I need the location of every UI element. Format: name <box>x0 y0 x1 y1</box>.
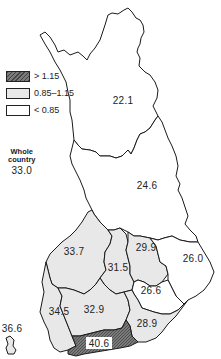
legend-label-medium: 0.85–1.15 <box>34 88 74 98</box>
label-oulu: 24.6 <box>137 180 158 191</box>
label-vaasa: 33.7 <box>64 246 85 257</box>
legend-label-low: < 0.85 <box>34 105 59 115</box>
legend-swatch-high <box>6 71 30 82</box>
label-lapland: 22.1 <box>113 95 134 106</box>
label-central-finland: 31.5 <box>108 262 129 273</box>
label-kymi: 28.9 <box>137 318 158 329</box>
legend-item-low: < 0.85 <box>6 102 74 118</box>
region-aland <box>6 336 16 354</box>
finland-map: 22.1 24.6 33.7 31.5 29.9 26.0 26.6 34.5 … <box>0 0 221 359</box>
label-north-karelia: 26.0 <box>183 253 204 264</box>
whole-country-title-2: country <box>8 156 36 164</box>
label-kuopio: 29.9 <box>136 242 157 253</box>
label-mikkeli: 26.6 <box>141 285 162 296</box>
legend-item-medium: 0.85–1.15 <box>6 85 74 101</box>
label-uusimaa: 40.6 <box>89 338 110 349</box>
whole-country-summary: Whole country 33.0 <box>8 148 36 176</box>
label-aland: 36.6 <box>2 323 23 334</box>
legend-item-high: > 1.15 <box>6 68 74 84</box>
label-hame: 32.9 <box>84 304 105 315</box>
legend-label-high: > 1.15 <box>34 71 59 81</box>
legend: > 1.15 0.85–1.15 < 0.85 <box>6 68 74 119</box>
legend-swatch-low <box>6 105 30 116</box>
label-turku-pori: 34.5 <box>49 306 70 317</box>
legend-swatch-medium <box>6 88 30 99</box>
whole-country-value: 33.0 <box>8 165 36 176</box>
